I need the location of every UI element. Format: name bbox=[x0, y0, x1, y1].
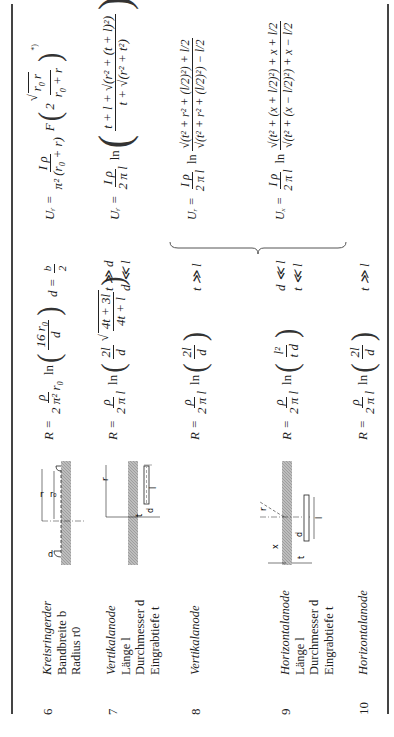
row-number: 9 bbox=[278, 709, 294, 716]
validity-condition: d ≪ l t ≪ l bbox=[272, 260, 306, 291]
table-bottom-rule bbox=[387, 4, 389, 714]
svg-text:l: l bbox=[149, 487, 158, 489]
row-description: Horizontalanode Länge l Durchmesser d Ei… bbox=[278, 590, 336, 675]
svg-text:d: d bbox=[295, 532, 304, 537]
validity-condition: t ≫ l bbox=[356, 263, 373, 291]
resistance-formula: R = ρ2 π l ln ( 2ld ) bbox=[348, 332, 377, 440]
svg-text:r: r bbox=[100, 477, 110, 481]
row-description: Vertikalanode Länge l Durchmesser d Eing… bbox=[104, 600, 162, 675]
row-description: Vertikalanode bbox=[188, 606, 203, 675]
resistance-formula: R = ρ2 π l ln ( 2ld 4t + 3l4t + l ) bbox=[98, 277, 128, 441]
row-number: 8 bbox=[188, 709, 204, 716]
potential-formula: Uᵣ = I ρ2 π l ln √(t² + r² + (l/2)²) + l… bbox=[178, 36, 207, 220]
potential-formula: Uₓ = I ρ2 π l ln √(t² + (x + l/2)²) + x … bbox=[266, 19, 295, 220]
horizontal-anode-drawing: r x t l d bbox=[248, 447, 358, 567]
validity-condition: t ≫ d d ≪ l bbox=[100, 260, 134, 291]
svg-text:t: t bbox=[135, 514, 144, 517]
potential-formula: Uᵣ = I ρ2 π l ln ( t + l + √(r² + (t + l… bbox=[95, 0, 135, 220]
resistance-formula: R = ρ2 π l ln ( 2ld ) bbox=[180, 332, 209, 440]
brace-icon bbox=[168, 240, 348, 340]
resistance-formula: R = ρ2 π² r₀ ln ( 16 r₀d ) bbox=[34, 306, 63, 440]
svg-text:r: r bbox=[40, 489, 44, 499]
ring-earth-drawing: r r₀ d bbox=[28, 447, 88, 567]
svg-text:t: t bbox=[297, 556, 306, 559]
svg-text:r₀: r₀ bbox=[50, 490, 57, 499]
table-top-rule bbox=[11, 4, 13, 714]
row-description: Kreisringerder Bandbreite b Radius r0 bbox=[40, 601, 84, 675]
row-description: Horizontalanode bbox=[356, 590, 371, 675]
svg-text:l: l bbox=[315, 517, 324, 519]
row-number: 6 bbox=[40, 709, 56, 716]
row-number: 10 bbox=[356, 702, 372, 715]
vertical-anode-drawing: r t l d bbox=[92, 447, 162, 567]
validity-condition: d = b2 bbox=[40, 262, 69, 297]
potential-formula: Uᵣ = I ρπ² (r₀ + r) F ( 2r0 rr0 + r )*) bbox=[30, 44, 70, 220]
rotated-table-page: 6 Kreisringerder Bandbreite b Radius r0 … bbox=[0, 0, 394, 737]
svg-text:d: d bbox=[146, 508, 155, 513]
resistance-formula: R = ρ2 π l ln ( l²t d ) bbox=[272, 329, 301, 440]
svg-text:x: x bbox=[271, 544, 280, 549]
svg-text:d: d bbox=[48, 550, 53, 559]
row-number: 7 bbox=[105, 709, 121, 716]
svg-text:r: r bbox=[258, 507, 268, 511]
